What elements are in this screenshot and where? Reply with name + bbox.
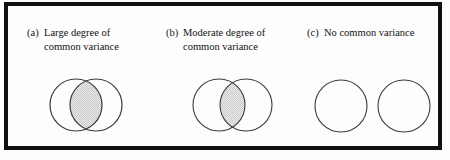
caption-a-line1: Large degree of <box>44 27 110 38</box>
caption-a: (a)Large degree of common variance <box>27 26 119 53</box>
caption-c-line1: No common variance <box>324 27 414 38</box>
caption-b: (b)Moderate degree of common variance <box>166 26 265 53</box>
venn-c-circle-right <box>378 80 430 132</box>
caption-b-tag: (b) <box>166 26 183 40</box>
venn-c-circle-left <box>315 80 367 132</box>
caption-b-line2: common variance <box>183 40 265 54</box>
caption-a-line2: common variance <box>44 40 119 54</box>
caption-c-tag: (c) <box>307 26 324 40</box>
caption-b-line1: Moderate degree of <box>183 27 265 38</box>
venn-diagram-c <box>311 74 435 136</box>
venn-diagram-b <box>188 74 280 136</box>
venn-diagram-a <box>44 74 128 136</box>
caption-c: (c)No common variance <box>307 26 414 40</box>
figure-root: (a)Large degree of common variance (b) <box>0 0 450 160</box>
caption-a-tag: (a) <box>27 26 44 40</box>
